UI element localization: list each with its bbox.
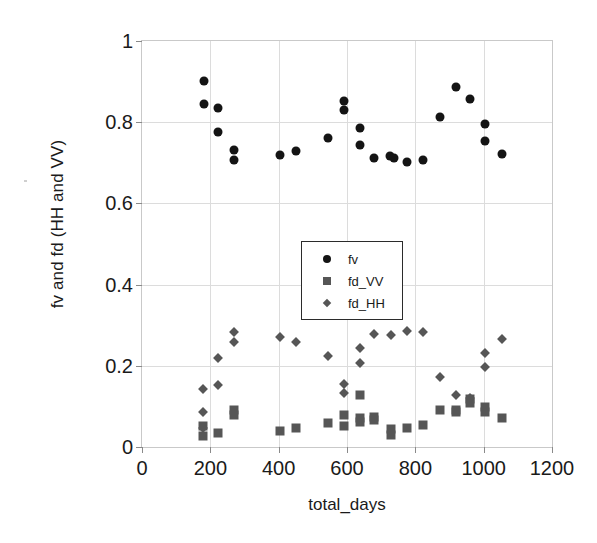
data-point-fd-hh	[213, 380, 223, 390]
data-point-fv	[355, 140, 364, 149]
data-point-fv	[418, 155, 427, 164]
data-point-fd-hh	[198, 407, 208, 417]
plot-area: 00.20.40.60.81 020040060080010001200 fv …	[141, 40, 553, 448]
data-point-fd-hh	[213, 354, 223, 364]
data-point-fv	[480, 120, 489, 129]
data-point-fd-hh	[402, 326, 412, 336]
x-tick-mark	[415, 447, 416, 453]
data-point-fd-hh	[435, 372, 445, 382]
data-point-fv	[355, 123, 364, 132]
data-point-fd-hh	[291, 337, 301, 347]
data-point-fd-hh	[229, 327, 239, 337]
data-point-fv	[370, 153, 379, 162]
gridline-vertical	[484, 41, 485, 447]
y-tick-label: 1	[122, 30, 133, 53]
data-point-fv	[292, 146, 301, 155]
data-point-fv	[452, 83, 461, 92]
legend-item-fd-hh: fd_HH	[302, 292, 402, 314]
data-point-fd-vv	[276, 426, 285, 435]
y-tick-mark	[136, 122, 142, 123]
data-point-fd-vv	[229, 411, 238, 420]
data-point-fv	[466, 94, 475, 103]
gridline-horizontal	[142, 203, 552, 204]
y-tick-label: 0.2	[105, 354, 133, 377]
chart-legend: fv fd_VV fd_HH	[301, 241, 403, 320]
legend-label-fd-vv: fd_VV	[348, 274, 383, 289]
y-tick-label: 0.6	[105, 192, 133, 215]
data-point-fd-hh	[480, 362, 490, 372]
data-point-fv	[389, 153, 398, 162]
data-point-fd-vv	[213, 429, 222, 438]
x-tick-label: 1000	[461, 457, 506, 480]
gridline-horizontal	[142, 122, 552, 123]
data-point-fv	[276, 151, 285, 160]
gridline-horizontal	[142, 366, 552, 367]
circle-marker-icon	[316, 255, 338, 263]
x-tick-mark	[279, 447, 280, 453]
y-tick-label: 0.8	[105, 111, 133, 134]
data-point-fd-vv	[480, 408, 489, 417]
x-tick-mark	[142, 447, 143, 453]
data-point-fd-hh	[229, 337, 239, 347]
legend-item-fd-vv: fd_VV	[302, 270, 402, 292]
square-marker-icon	[316, 277, 338, 285]
x-tick-label: 600	[330, 457, 363, 480]
data-point-fd-hh	[386, 330, 396, 340]
data-point-fd-vv	[324, 419, 333, 428]
data-point-fd-hh	[369, 329, 379, 339]
y-tick-mark	[136, 41, 142, 42]
data-point-fd-vv	[387, 430, 396, 439]
data-point-fv	[229, 156, 238, 165]
y-tick-mark	[136, 203, 142, 204]
data-point-fd-hh	[480, 348, 490, 358]
data-point-fd-hh	[198, 384, 208, 394]
data-point-fv	[213, 128, 222, 137]
data-point-fd-hh	[418, 327, 428, 337]
y-axis-label: fv and fd (HH and VV)	[48, 54, 68, 394]
data-point-fv	[480, 136, 489, 145]
data-point-fd-vv	[339, 411, 348, 420]
y-tick-mark	[136, 285, 142, 286]
data-point-fv	[229, 145, 238, 154]
data-point-fd-hh	[451, 390, 461, 400]
gridline-vertical	[415, 41, 416, 447]
x-tick-mark	[210, 447, 211, 453]
data-point-fd-vv	[370, 416, 379, 425]
x-tick-mark	[484, 447, 485, 453]
data-point-fd-vv	[452, 408, 461, 417]
data-point-fd-vv	[418, 421, 427, 430]
scan-artifact-speck	[24, 180, 27, 182]
x-tick-label: 1200	[530, 457, 575, 480]
legend-label-fv: fv	[348, 252, 358, 267]
data-point-fd-hh	[355, 358, 365, 368]
x-tick-mark	[347, 447, 348, 453]
data-point-fv	[324, 133, 333, 142]
data-point-fv	[199, 99, 208, 108]
x-axis-label: total_days	[141, 495, 553, 515]
data-point-fv	[339, 97, 348, 106]
legend-item-fv: fv	[302, 248, 402, 270]
data-point-fd-vv	[355, 417, 364, 426]
x-tick-label: 800	[399, 457, 432, 480]
gridline-vertical	[210, 41, 211, 447]
data-point-fv	[339, 106, 348, 115]
x-tick-label: 0	[136, 457, 147, 480]
x-tick-mark	[552, 447, 553, 453]
diamond-marker-icon	[316, 300, 338, 306]
legend-label-fd-hh: fd_HH	[348, 296, 385, 311]
x-tick-label: 400	[262, 457, 295, 480]
data-point-fd-vv	[498, 413, 507, 422]
y-tick-label: 0.4	[105, 273, 133, 296]
data-point-fd-vv	[339, 421, 348, 430]
data-point-fd-vv	[435, 406, 444, 415]
data-point-fd-hh	[323, 351, 333, 361]
data-point-fd-hh	[275, 332, 285, 342]
data-point-fv	[435, 112, 444, 121]
data-point-fd-hh	[498, 334, 508, 344]
scatter-plot-figure: fv and fd (HH and VV) 00.20.40.60.81 020…	[0, 0, 597, 543]
data-point-fv	[498, 149, 507, 158]
data-point-fd-hh	[355, 343, 365, 353]
data-point-fv	[199, 76, 208, 85]
x-tick-label: 200	[194, 457, 227, 480]
data-point-fd-vv	[292, 424, 301, 433]
